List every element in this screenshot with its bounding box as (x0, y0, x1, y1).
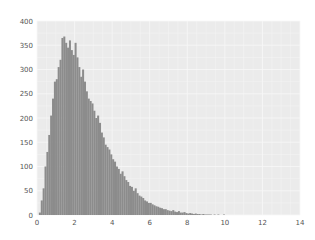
histogram-bar (193, 214, 195, 215)
histogram-bar (91, 103, 93, 215)
histogram-bar (60, 60, 62, 215)
histogram-bar (95, 118, 97, 215)
histogram-bar (180, 213, 182, 215)
histogram-bar (123, 176, 125, 215)
histogram-chart: 050100150200250300350400 02468101214 (0, 0, 315, 240)
histogram-bar (99, 123, 101, 215)
histogram-bar (88, 99, 90, 215)
histogram-bar (48, 135, 50, 215)
histogram-bar (97, 116, 99, 215)
histogram-bar (93, 111, 95, 215)
x-tick-label: 8 (185, 219, 189, 227)
histogram-bar (101, 133, 103, 215)
histogram-bar (75, 43, 77, 215)
histogram-bar (140, 197, 142, 215)
histogram-bar (71, 50, 73, 215)
x-tick-label: 12 (258, 219, 267, 227)
histogram-bar (107, 147, 109, 215)
histogram-bar (148, 203, 150, 215)
histogram-bar (172, 210, 174, 215)
histogram-bar (84, 82, 86, 215)
histogram-bar (112, 159, 114, 215)
y-tick-label: 300 (20, 66, 33, 74)
histogram-bar (163, 209, 165, 215)
histogram-bar (67, 48, 69, 215)
histogram-bar (176, 212, 178, 215)
histogram-bar (46, 152, 48, 215)
histogram-bar (61, 38, 63, 215)
histogram-bar (108, 150, 110, 215)
y-tick-label: 50 (24, 187, 33, 195)
histogram-bar (110, 154, 112, 215)
histogram-bar (58, 67, 60, 215)
histogram-bar (161, 208, 163, 215)
histogram-bar (82, 70, 84, 216)
histogram-bar (120, 174, 122, 215)
histogram-bar (144, 200, 146, 215)
histogram-bar (131, 187, 133, 215)
y-tick-label: 350 (20, 42, 33, 50)
histogram-bar (129, 186, 131, 215)
y-tick-label: 400 (20, 18, 33, 26)
histogram-bar (76, 57, 78, 215)
histogram-bar (116, 167, 118, 216)
histogram-bar (202, 214, 204, 215)
x-tick-label: 2 (72, 219, 76, 227)
histogram-bar (191, 214, 193, 215)
histogram-bar (78, 67, 80, 215)
histogram-bar (50, 116, 52, 215)
histogram-bar (54, 82, 56, 215)
x-tick-label: 0 (35, 219, 39, 227)
histogram-bar (159, 208, 161, 215)
y-tick-label: 100 (20, 163, 33, 171)
histogram-bar (157, 207, 159, 215)
histogram-bar (80, 77, 82, 215)
histogram-bar (133, 191, 135, 215)
histogram-bar (52, 99, 54, 215)
histogram-bar (195, 214, 197, 215)
histogram-bar (138, 196, 140, 215)
histogram-bar (150, 203, 152, 215)
histogram-bar (43, 188, 45, 215)
histogram-bar (86, 91, 88, 215)
histogram-bar (170, 211, 172, 215)
histogram-bar (45, 167, 47, 216)
x-tick-label: 14 (296, 219, 305, 227)
x-tick-label: 6 (147, 219, 152, 227)
histogram-bar (114, 162, 116, 215)
histogram-bar (122, 171, 124, 215)
y-tick-label: 250 (20, 90, 33, 98)
x-axis-ticks: 02468101214 (35, 219, 305, 227)
histogram-bar (105, 145, 107, 215)
histogram-bar (90, 101, 92, 215)
histogram-bar (39, 213, 41, 215)
histogram-bar (174, 212, 176, 215)
histogram-bar (69, 40, 71, 215)
histogram-bar (184, 212, 186, 215)
histogram-bar (155, 206, 157, 215)
y-axis-ticks: 050100150200250300350400 (20, 18, 33, 220)
x-tick-label: 10 (220, 219, 229, 227)
histogram-bar (182, 213, 184, 215)
histogram-bar (146, 201, 148, 215)
histogram-bar (73, 55, 75, 215)
histogram-bar (65, 43, 67, 215)
histogram-bar (56, 79, 58, 215)
y-tick-label: 200 (20, 115, 33, 123)
histogram-bar (178, 211, 180, 215)
histogram-bar (127, 182, 129, 215)
histogram-bar (142, 198, 144, 215)
x-tick-label: 4 (110, 219, 115, 227)
histogram-bar (165, 209, 167, 215)
histogram-bar (41, 200, 43, 215)
y-tick-label: 0 (29, 212, 33, 220)
histogram-bar (118, 169, 120, 215)
histogram-bar (152, 204, 154, 215)
histogram-bar (189, 213, 191, 215)
histogram-bar (125, 180, 127, 215)
histogram-bar (137, 193, 139, 215)
histogram-bar (153, 205, 155, 215)
histogram-bar (135, 188, 137, 215)
y-tick-label: 150 (20, 139, 33, 147)
histogram-bar (197, 214, 199, 215)
